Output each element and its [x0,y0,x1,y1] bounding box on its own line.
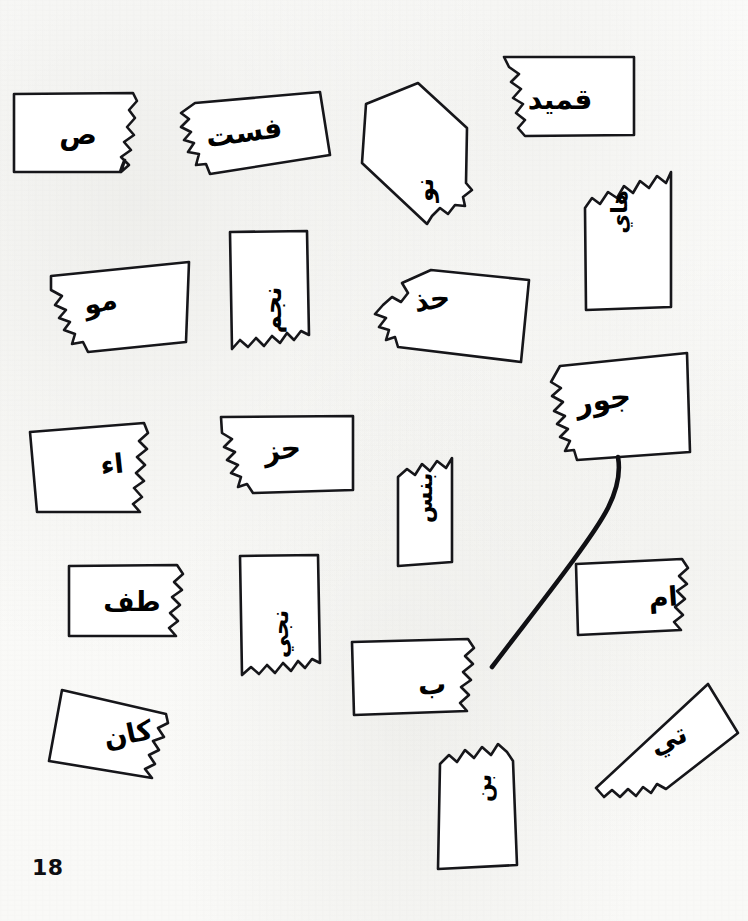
state-shape-label: ب [417,670,447,699]
state-shape-label: حذ [412,283,453,317]
state-shape-label: بن [473,774,495,802]
state-shape-label: قميد [528,86,593,114]
shapes-board: صفستنوقميدهايمونجمحذجوراءحزبنسطفنجيامبكا… [0,0,748,921]
river-line [492,457,619,667]
state-shape-label: اء [99,449,125,478]
state-shape-label: طف [103,588,161,615]
state-shape-label: بنس [413,473,436,524]
state-shape-label: ام [648,583,679,612]
worksheet-page: صفستنوقميدهايمونجمحذجوراءحزبنسطفنجيامبكا… [0,0,748,921]
state-shape-label: نو [413,178,437,202]
state-shape-label: جور [573,381,633,418]
state-shape-label: هاي [609,190,631,234]
state-shape-label: ص [59,121,97,149]
state-shape-label: نجم [260,286,285,333]
state-shape-label: نجي [269,610,292,658]
page-number: 18 [32,855,64,880]
state-shape-label: مو [81,285,120,319]
state-shape-label: حز [261,434,302,467]
